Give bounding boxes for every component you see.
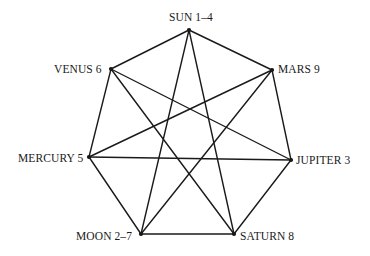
label-sun: SUN 1–4 (169, 11, 213, 23)
label-moon: MOON 2–7 (76, 230, 132, 242)
label-mars: MARS 9 (278, 63, 320, 75)
vertex-saturn (233, 233, 236, 236)
heptagon-edge-venus-sun (111, 30, 189, 69)
label-saturn: SATURN 8 (240, 230, 294, 242)
vertex-venus (110, 68, 113, 71)
heptagram-diagram: SUN 1–4 MARS 9 JUPITER 3 SATURN 8 MOON 2… (0, 0, 370, 256)
vertex-mercury (88, 156, 91, 159)
star-edge-mars-mercury (89, 70, 272, 157)
label-mercury: MERCURY 5 (18, 152, 83, 164)
heptagon-edge-mars-jupiter (272, 70, 291, 160)
star-edge-jupiter-mercury (89, 157, 291, 160)
label-jupiter: JUPITER 3 (296, 154, 350, 166)
heptagon-edge-moon-mercury (89, 157, 141, 234)
heptagon-edge-sun-mars (189, 30, 272, 70)
heptagon-edge-jupiter-saturn (234, 160, 291, 234)
label-venus: VENUS 6 (54, 63, 102, 75)
vertex-moon (140, 233, 143, 236)
vertex-jupiter (290, 159, 293, 162)
heptagon-edge-mercury-venus (89, 69, 111, 157)
heptagram-lines (0, 0, 370, 256)
vertex-sun (188, 29, 191, 32)
vertex-mars (271, 69, 274, 72)
